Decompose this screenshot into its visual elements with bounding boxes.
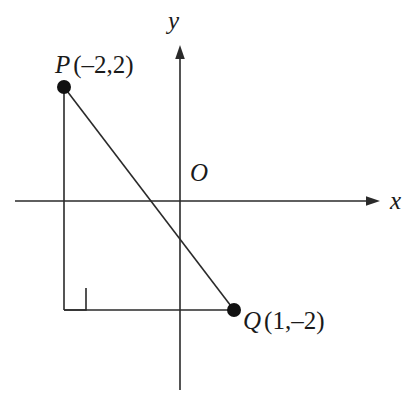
y-axis: [175, 45, 185, 390]
point-name-q: Q: [243, 307, 261, 334]
point-marker-p: [57, 80, 71, 94]
origin-label: O: [190, 160, 208, 185]
right-angle-marker-icon: [64, 288, 86, 310]
point-label-p: P(–2,2): [55, 52, 134, 77]
x-axis: [15, 196, 380, 206]
y-axis-arrowhead-icon: [175, 45, 185, 59]
x-axis-label: x: [390, 188, 401, 213]
point-coords-p: (–2,2): [73, 51, 133, 78]
point-marker-q: [227, 303, 241, 317]
coordinate-geometry-figure: y x O P(–2,2) Q(1,–2): [0, 0, 419, 402]
y-axis-label: y: [168, 8, 179, 33]
point-label-q: Q(1,–2): [243, 308, 324, 333]
point-coords-q: (1,–2): [264, 307, 324, 334]
x-axis-arrowhead-icon: [366, 196, 380, 206]
point-name-p: P: [55, 51, 70, 78]
hypotenuse-segment-pq: [64, 87, 234, 310]
